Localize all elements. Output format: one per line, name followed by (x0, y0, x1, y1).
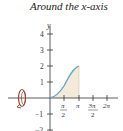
y-tick-label-1: 1 (40, 78, 44, 87)
y-tick-label-4: 4 (40, 30, 44, 39)
y-tick-label-neg2: −2 (35, 126, 43, 131)
y-tick-label-3: 3 (40, 46, 44, 55)
y-tick-label-neg1: −1 (35, 110, 43, 119)
x-tick-label-2pi: 2π (103, 102, 111, 110)
shaded-region (50, 66, 79, 98)
x-tick-label-pi-over-2-den: 2 (62, 111, 66, 119)
y-axis-label: y (46, 21, 51, 30)
rotation-arrow-icon (17, 90, 26, 109)
plot: y 4 3 2 1 −1 −2 π 2 π 3π 2 2π (0, 0, 123, 131)
y-tick-label-2: 2 (40, 62, 44, 71)
x-tick-label-3pi-over-2-num: 3π (88, 102, 97, 110)
x-tick-label-pi: π (76, 102, 80, 110)
x-tick-label-pi-over-2-num: π (61, 102, 65, 110)
x-tick-label-3pi-over-2-den: 2 (91, 111, 95, 119)
